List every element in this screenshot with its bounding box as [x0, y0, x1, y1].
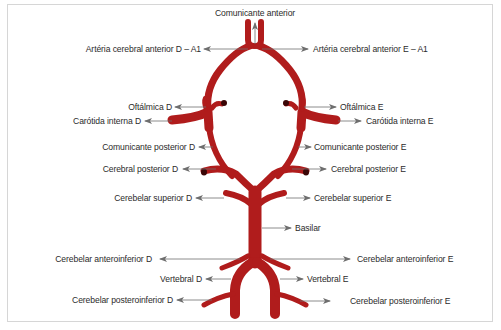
ophthalmic-left-up: [204, 98, 206, 110]
vessel-cut-ends: [201, 100, 309, 176]
label-com-post-e: Comunicante posterior E: [314, 142, 406, 152]
label-vertebral-d: Vertebral D: [130, 274, 202, 284]
label-com-post-d: Comunicante posterior D: [60, 142, 195, 152]
label-pica-e: Cerebelar posteroinferior E: [350, 296, 450, 306]
label-cerebelar-sup-e: Cerebelar superior E: [314, 193, 391, 203]
pca-right: [255, 169, 306, 192]
label-aca-e: Artéria cerebral anterior E – A1: [313, 44, 428, 54]
label-aica-d: Cerebelar anteroinferior D: [30, 254, 152, 264]
label-aica-e: Cerebelar anteroinferior E: [357, 254, 453, 264]
label-oftalmica-d: Oftálmica D: [100, 102, 172, 112]
vessels: [172, 22, 336, 314]
label-comunicante-anterior: Comunicante anterior: [213, 8, 297, 18]
label-basilar: Basilar: [295, 223, 321, 233]
label-oftalmica-e: Oftálmica E: [340, 102, 383, 112]
label-pica-d: Cerebelar posteroinferior D: [40, 295, 173, 305]
ica-left: [172, 112, 209, 128]
label-carotida-d: Carótida interna D: [40, 116, 141, 126]
anterior-communicating-right-stub: [256, 22, 261, 46]
label-cer-post-d: Cerebral posterior D: [60, 164, 178, 174]
ica-right: [301, 112, 336, 128]
ophthalmic-right-up: [302, 98, 304, 110]
label-carotida-e: Carótida interna E: [366, 116, 433, 126]
anterior-communicating-left-stub: [248, 22, 254, 46]
vertebral-right: [257, 262, 275, 314]
label-aca-d: Artéria cerebral anterior D – A1: [40, 44, 201, 54]
sca-left: [226, 193, 251, 204]
label-cerebelar-sup-d: Cerebelar superior D: [80, 193, 192, 203]
label-vertebral-e: Vertebral E: [307, 274, 348, 284]
pica-right: [277, 294, 306, 305]
pica-left: [204, 294, 233, 305]
ophthalmic-left: [212, 104, 222, 109]
sca-right: [259, 193, 284, 204]
aca-left: [208, 46, 250, 108]
label-cer-post-e: Cerebral posterior E: [331, 164, 406, 174]
aca-right: [259, 46, 302, 108]
vertebral-left: [235, 262, 253, 314]
pca-left: [204, 169, 255, 192]
